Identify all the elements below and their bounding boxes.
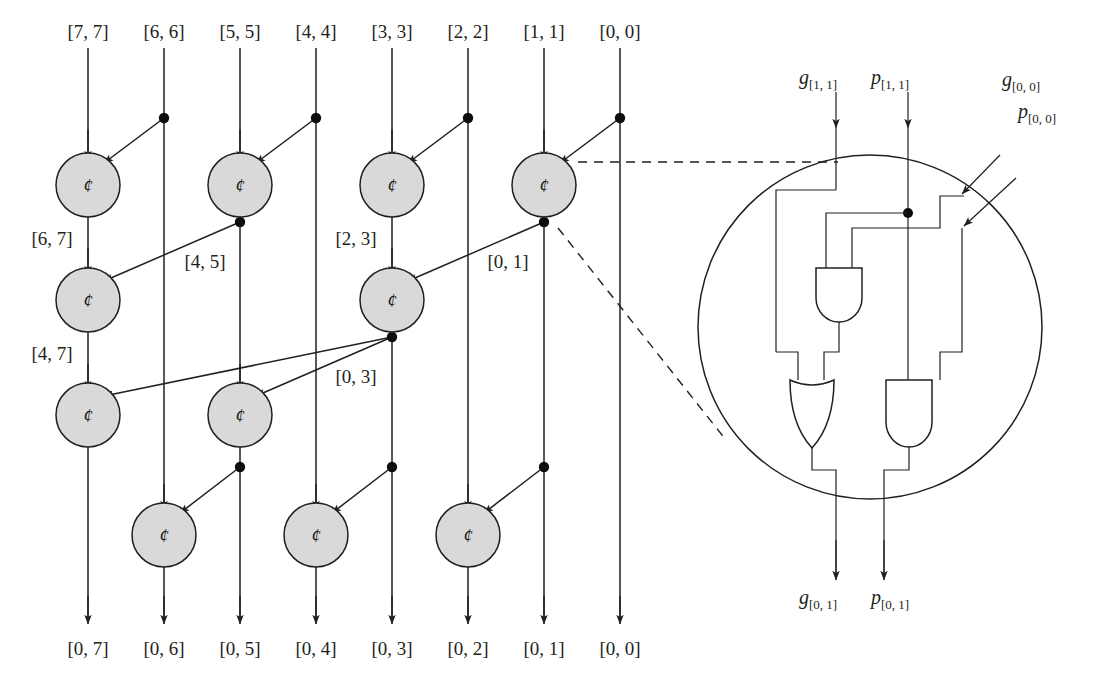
operator-node[interactable]: ¢ bbox=[436, 503, 500, 567]
g11-label: g[1, 1] bbox=[799, 66, 837, 92]
p00-label: p[0, 0] bbox=[1016, 100, 1056, 126]
top-label: [6, 6] bbox=[143, 21, 184, 42]
operator-glyph: ¢ bbox=[463, 525, 473, 546]
operator-node[interactable]: ¢ bbox=[360, 153, 424, 217]
edge-label: [0, 3] bbox=[335, 366, 376, 387]
p00-input-arrow bbox=[964, 178, 1016, 226]
p01-label: p[0, 1] bbox=[869, 586, 909, 612]
magnifier-circle bbox=[698, 155, 1042, 499]
operator-glyph: ¢ bbox=[387, 175, 397, 196]
and-gate-top bbox=[816, 268, 862, 322]
operator-glyph: ¢ bbox=[235, 405, 245, 426]
operator-glyph: ¢ bbox=[83, 290, 93, 311]
edge-label: [4, 5] bbox=[184, 251, 225, 272]
bottom-label: [0, 7] bbox=[67, 638, 108, 659]
edge-label: [2, 3] bbox=[335, 228, 376, 249]
operator-node[interactable]: ¢ bbox=[284, 503, 348, 567]
operator-node[interactable]: ¢ bbox=[56, 268, 120, 332]
operator-glyph: ¢ bbox=[311, 525, 321, 546]
operator-node[interactable]: ¢ bbox=[208, 153, 272, 217]
top-label: [5, 5] bbox=[219, 21, 260, 42]
bottom-label-group: [0, 7] [0, 6] [0, 5] [0, 4] [0, 3] [0, 2… bbox=[67, 638, 640, 659]
figure-canvas: ¢ ¢ ¢ ¢ ¢ ¢ ¢ ¢ bbox=[0, 0, 1106, 676]
bottom-label: [0, 6] bbox=[143, 638, 184, 659]
operator-glyph: ¢ bbox=[387, 290, 397, 311]
g00-input-arrow bbox=[962, 155, 1000, 194]
top-label: [7, 7] bbox=[67, 21, 108, 42]
bottom-label: [0, 0] bbox=[599, 638, 640, 659]
operator-node[interactable]: ¢ bbox=[208, 383, 272, 447]
operator-node[interactable]: ¢ bbox=[56, 383, 120, 447]
or-gate-bottom bbox=[790, 380, 834, 448]
top-label: [1, 1] bbox=[523, 21, 564, 42]
operator-glyph: ¢ bbox=[235, 175, 245, 196]
top-label: [4, 4] bbox=[295, 21, 336, 42]
prefix-edges-level-2 bbox=[104, 222, 544, 281]
prefix-edges-level-4 bbox=[180, 467, 544, 513]
top-label: [2, 2] bbox=[447, 21, 488, 42]
edge-label: [6, 7] bbox=[31, 228, 72, 249]
bottom-label: [0, 2] bbox=[447, 638, 488, 659]
g00-label: g[0, 0] bbox=[1002, 68, 1040, 94]
top-label: [0, 0] bbox=[599, 21, 640, 42]
and-gate-bottom bbox=[886, 380, 932, 447]
operator-node[interactable]: ¢ bbox=[360, 268, 424, 332]
operator-node[interactable]: ¢ bbox=[56, 153, 120, 217]
operator-glyph: ¢ bbox=[83, 405, 93, 426]
bottom-label: [0, 3] bbox=[371, 638, 412, 659]
bottom-label: [0, 4] bbox=[295, 638, 336, 659]
g01-label: g[0, 1] bbox=[799, 586, 837, 612]
operator-glyph: ¢ bbox=[83, 175, 93, 196]
magnifier-detail: g[1, 1] p[1, 1] g[0, 0] p[0, 0] g[0, 1] … bbox=[698, 66, 1056, 612]
p11-label: p[1, 1] bbox=[869, 66, 909, 92]
edge-label: [0, 1] bbox=[487, 251, 528, 272]
output-arrowheads bbox=[88, 596, 620, 624]
edge-label: [4, 7] bbox=[31, 343, 72, 364]
bottom-label: [0, 1] bbox=[523, 638, 564, 659]
operator-node[interactable]: ¢ bbox=[512, 153, 576, 217]
bottom-label: [0, 5] bbox=[219, 638, 260, 659]
operator-glyph: ¢ bbox=[159, 525, 169, 546]
operator-glyph: ¢ bbox=[539, 175, 549, 196]
top-label-group: [7, 7] [6, 6] [5, 5] [4, 4] [3, 3] [2, 2… bbox=[67, 21, 640, 42]
top-label: [3, 3] bbox=[371, 21, 412, 42]
operator-node[interactable]: ¢ bbox=[132, 503, 196, 567]
